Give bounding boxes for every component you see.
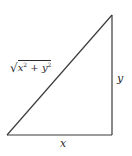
vertical-leg-label: y — [117, 73, 123, 84]
y-exponent: 2 — [48, 61, 52, 68]
horizontal-leg-label: x — [60, 138, 66, 149]
hypotenuse-label: √x2 + y2 — [10, 61, 51, 73]
radical-sign: √ — [10, 61, 18, 75]
hypotenuse-line — [7, 15, 112, 135]
radicand: x2 + y2 — [18, 60, 52, 73]
triangle-figure — [0, 0, 132, 156]
plus-sign: + — [27, 62, 42, 73]
